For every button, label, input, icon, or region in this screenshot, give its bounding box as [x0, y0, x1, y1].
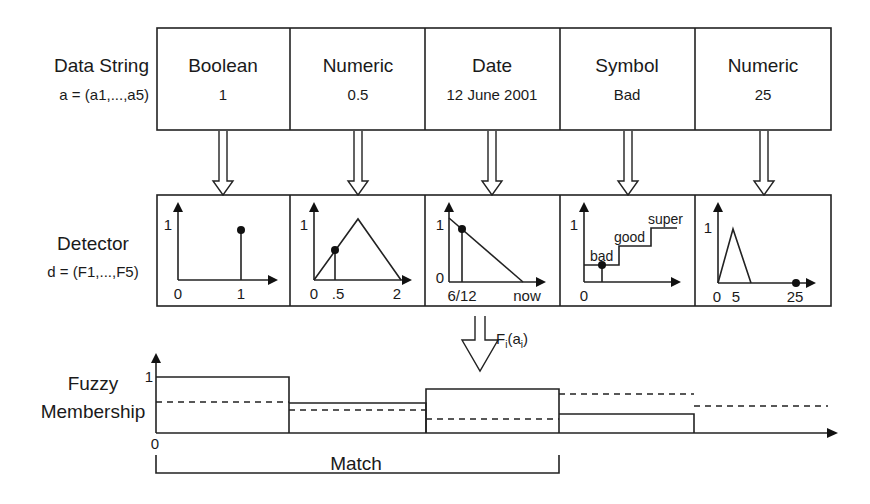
data-string-title: Data String: [54, 55, 149, 76]
down-arrow-icon: [348, 131, 368, 195]
arrow-up-icon: [579, 202, 589, 212]
cell-type: Symbol: [595, 55, 658, 76]
detector-frame: [157, 195, 831, 306]
membership-bar-1: [156, 377, 289, 433]
cell-value: 0.5: [348, 86, 369, 103]
data-string-row-label: Data String a = (a1,...,a5): [54, 55, 149, 103]
arrow-up-icon: [173, 202, 183, 212]
x-tick: 1: [237, 285, 245, 302]
down-arrow-icon: [482, 131, 502, 195]
cell-type: Date: [472, 55, 512, 76]
arrow-up-icon: [713, 202, 723, 212]
fuzzy-membership-chart: 1 0 Match: [145, 353, 838, 474]
data-point: [331, 246, 339, 254]
membership-bar-2: [289, 403, 426, 433]
arrow-right-icon: [671, 277, 681, 287]
match-label: Match: [330, 453, 382, 474]
detector-numeric-narrow: 1 0 5 25: [704, 202, 816, 305]
membership-curve: [718, 229, 751, 283]
down-arrow-icon: [754, 131, 774, 195]
data-cell-3: Date 12 June 2001: [447, 55, 538, 103]
detector-symbol-step: 1 0 bad good super: [570, 202, 684, 304]
data-point: [458, 225, 466, 233]
x-tick: 0: [713, 288, 721, 305]
transform-arrow: Fi(ai): [462, 316, 528, 371]
membership-bar-4: [559, 414, 694, 433]
detector-numeric-triangle: 1 0 .5 2: [300, 202, 412, 302]
fuzzy-row-label: Fuzzy Membership: [41, 373, 146, 422]
down-arrow-icon: [213, 131, 233, 195]
y-tick-top: 1: [145, 368, 153, 385]
detector-title: Detector: [57, 233, 129, 254]
y-tick: 1: [300, 216, 308, 233]
arrow-up-icon: [444, 202, 454, 212]
arrow-up-icon: [309, 202, 319, 212]
data-point: [237, 226, 245, 234]
arrow-right-icon: [827, 428, 838, 438]
detector-formula: d = (F1,...,F5): [47, 263, 138, 280]
x-tick: 6/12: [447, 287, 476, 304]
data-cell-2: Numeric 0.5: [323, 55, 394, 103]
step-label-good: good: [614, 229, 645, 245]
data-string-boxes: Boolean 1 Numeric 0.5 Date 12 June 2001 …: [157, 28, 831, 130]
y-tick-top: 1: [436, 216, 444, 233]
x-tick: 0: [174, 285, 182, 302]
cell-value: 12 June 2001: [447, 86, 538, 103]
x-tick: now: [513, 287, 541, 304]
cell-value: 1: [219, 86, 227, 103]
data-cell-1: Boolean 1: [188, 55, 258, 103]
cell-type: Numeric: [323, 55, 394, 76]
diagram-canvas: Data String a = (a1,...,a5) Detector d =…: [0, 0, 870, 504]
cell-value: 25: [755, 86, 772, 103]
detector-date: 1 0 6/12 now: [436, 202, 546, 304]
x-tick: 0: [580, 287, 588, 304]
y-tick: 1: [164, 216, 172, 233]
x-tick: 5: [732, 288, 740, 305]
cell-type: Boolean: [188, 55, 258, 76]
data-cell-4: Symbol Bad: [595, 55, 658, 103]
data-string-frame: [157, 28, 831, 130]
detector-boolean: 1 0 1: [164, 202, 278, 302]
y-tick-zero: 0: [436, 269, 444, 286]
x-tick: 2: [393, 285, 401, 302]
arrow-up-icon: [151, 353, 161, 363]
data-cell-5: Numeric 25: [728, 55, 799, 103]
detector-row-label: Detector d = (F1,...,F5): [47, 233, 138, 280]
data-string-formula: a = (a1,...,a5): [59, 86, 149, 103]
transform-label: Fi(ai): [496, 330, 528, 350]
y-tick: 1: [570, 216, 578, 233]
fuzzy-title-line2: Membership: [41, 401, 146, 422]
x-tick: 0: [310, 285, 318, 302]
x-tick: .5: [332, 285, 345, 302]
step-label-super: super: [648, 211, 683, 227]
down-arrows: [213, 131, 774, 195]
membership-bar-3: [426, 389, 559, 433]
data-point: [792, 279, 800, 287]
arrow-right-icon: [536, 277, 546, 287]
y-tick: 1: [704, 219, 712, 236]
x-tick: 25: [787, 288, 804, 305]
cell-type: Numeric: [728, 55, 799, 76]
cell-value: Bad: [614, 86, 641, 103]
step-label-bad: bad: [590, 248, 613, 264]
membership-curve: [314, 219, 401, 280]
detector-boxes: 1 0 1 1 0 .5 2 1 0: [157, 195, 831, 306]
arrow-right-icon: [268, 275, 278, 285]
fuzzy-title-line1: Fuzzy: [68, 373, 119, 394]
big-down-arrow-icon: [462, 316, 498, 371]
y-tick-zero: 0: [151, 435, 159, 452]
arrow-right-icon: [806, 278, 816, 288]
arrow-right-icon: [402, 275, 412, 285]
down-arrow-icon: [618, 131, 638, 195]
